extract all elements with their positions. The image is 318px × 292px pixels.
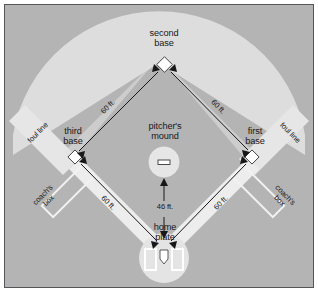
home-plate-label-line2: plate	[135, 233, 195, 243]
pitchers-mound-label-line2: mound	[132, 132, 198, 142]
second-base-label-line2: base	[131, 39, 197, 49]
home-plate-label: home plate	[135, 223, 195, 243]
second-base-label: second base	[131, 29, 197, 49]
dimension-label-home-to-mound: 46 ft.	[145, 203, 185, 211]
pitchers-mound-label: pitcher's mound	[132, 122, 198, 142]
baseball-field-diagram: second base third base first base pitche…	[4, 4, 314, 288]
third-base-label-line2: base	[45, 137, 101, 147]
pitchers-rubber	[158, 160, 170, 165]
third-base-label: third base	[45, 127, 101, 147]
first-base-label: first base	[227, 127, 283, 147]
first-base-label-line2: base	[227, 137, 283, 147]
